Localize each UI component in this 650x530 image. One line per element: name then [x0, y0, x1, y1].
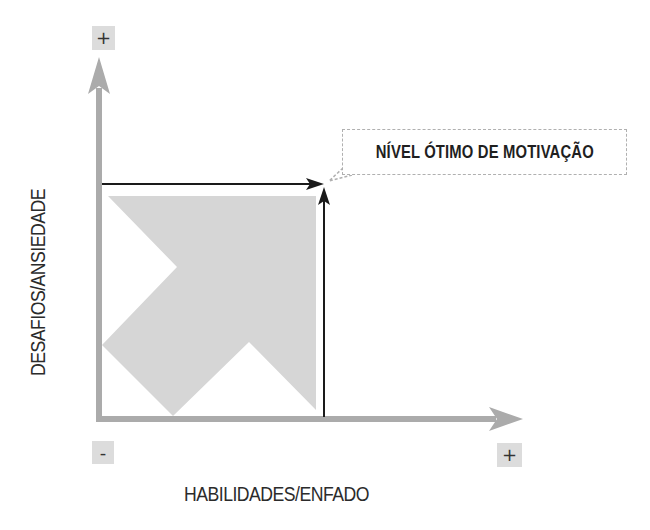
plus-icon: +	[96, 29, 111, 47]
optimal-motivation-callout: NÍVEL ÓTIMO DE MOTIVAÇÃO	[342, 129, 627, 175]
minus-icon: -	[100, 444, 107, 462]
callout-text: NÍVEL ÓTIMO DE MOTIVAÇÃO	[375, 141, 593, 163]
x-axis-max-marker: +	[497, 443, 522, 467]
y-axis-max-marker: +	[92, 26, 115, 50]
plus-icon: +	[502, 446, 517, 464]
x-axis-label: HABILIDADES/ENFADO	[184, 482, 369, 506]
diagonal-arrow-shape	[102, 196, 316, 416]
x-axis-min-marker: -	[92, 441, 114, 464]
y-axis-label: DESAFIOS/ANSIEDADE	[26, 189, 50, 376]
